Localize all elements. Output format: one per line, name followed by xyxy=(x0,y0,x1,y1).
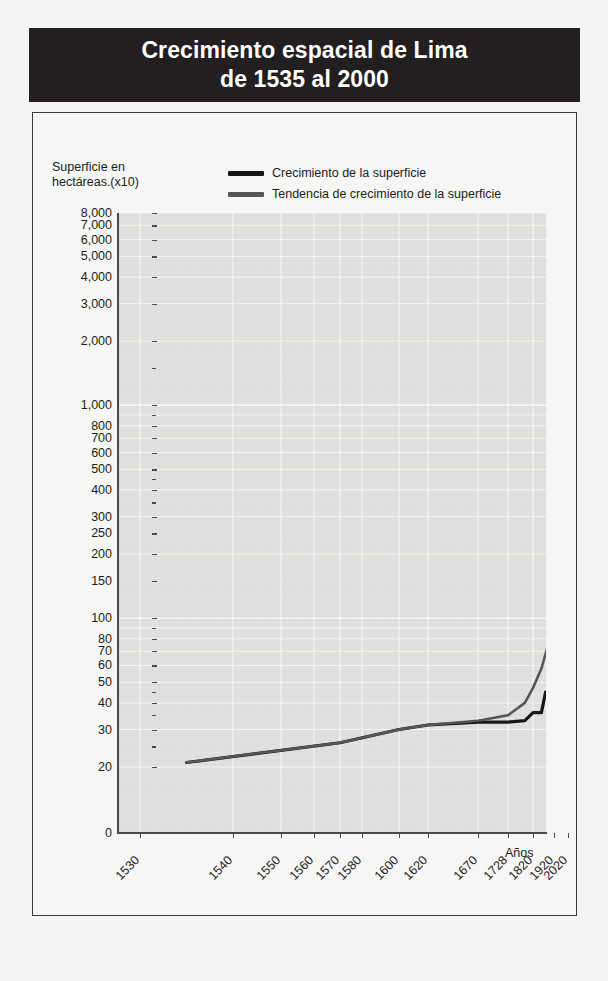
y-tick-mark xyxy=(152,517,157,518)
x-tick-mark xyxy=(428,833,429,838)
x-axis-title: Años xyxy=(505,846,534,860)
y-tick-mark xyxy=(152,581,157,582)
gridlines xyxy=(118,213,546,833)
y-tick-mark xyxy=(152,240,157,241)
y-tick-label: 20 xyxy=(98,760,112,774)
x-tick-mark xyxy=(281,833,282,838)
y-tick-mark xyxy=(152,438,157,439)
y-tick-label: 700 xyxy=(91,431,112,445)
y-tick-label: 6,000 xyxy=(81,233,112,247)
y-tick-mark xyxy=(152,533,157,534)
y-tick-label: 5,000 xyxy=(81,249,112,263)
y-tick-label: 300 xyxy=(91,510,112,524)
y-tick-mark-minor xyxy=(152,479,156,480)
y-tick-mark xyxy=(152,469,157,470)
y-tick-label: 600 xyxy=(91,446,112,460)
y-tick-label: 200 xyxy=(91,547,112,561)
y-tick-label: 250 xyxy=(91,526,112,540)
x-tick-mark xyxy=(399,833,400,838)
y-tick-mark xyxy=(152,277,157,278)
legend-item-tendencia: Tendencia de crecimiento de la superfici… xyxy=(228,186,501,202)
y-tick-mark xyxy=(152,426,157,427)
y-tick-label: 500 xyxy=(91,462,112,476)
y-tick-label: 150 xyxy=(91,574,112,588)
y-tick-label: 60 xyxy=(98,658,112,672)
y-tick-mark-minor xyxy=(152,502,156,503)
y-tick-mark-minor xyxy=(152,415,156,416)
y-tick-mark xyxy=(152,256,157,257)
legend-label-crecimiento: Crecimiento de la superficie xyxy=(272,166,426,180)
plot-area xyxy=(118,213,546,833)
y-tick-mark xyxy=(152,213,157,214)
y-tick-mark-minor xyxy=(152,368,156,369)
y-tick-label: 40 xyxy=(98,696,112,710)
x-tick-mark xyxy=(533,833,534,838)
page-title-line-2: de 1535 al 2000 xyxy=(220,65,389,94)
y-tick-mark xyxy=(152,833,157,834)
chart-figure: Crecimiento espacial de Lima de 1535 al … xyxy=(0,0,608,981)
x-tick-mark xyxy=(508,833,509,838)
x-tick-mark xyxy=(554,833,555,838)
y-tick-mark xyxy=(152,651,157,652)
y-tick-mark xyxy=(152,767,157,768)
plot-canvas xyxy=(118,213,546,833)
y-tick-mark xyxy=(152,304,157,305)
y-axis-line xyxy=(117,213,119,833)
y-tick-label: 100 xyxy=(91,611,112,625)
x-tick-mark xyxy=(568,833,569,838)
y-tick-mark-minor xyxy=(152,746,156,747)
y-tick-label: 3,000 xyxy=(81,297,112,311)
y-tick-mark xyxy=(152,405,157,406)
y-tick-mark xyxy=(152,703,157,704)
legend-swatch-tendencia xyxy=(228,192,264,197)
y-tick-mark xyxy=(152,453,157,454)
y-tick-label: 70 xyxy=(98,644,112,658)
chart-legend: Crecimiento de la superficie Tendencia d… xyxy=(228,165,501,202)
y-tick-mark-minor xyxy=(152,628,156,629)
y-tick-label: 1,000 xyxy=(81,398,112,412)
page-title-line-1: Crecimiento espacial de Lima xyxy=(141,36,467,65)
y-tick-mark xyxy=(152,618,157,619)
y-tick-mark-minor xyxy=(152,715,156,716)
y-tick-mark xyxy=(152,225,157,226)
y-tick-mark xyxy=(152,730,157,731)
y-tick-mark xyxy=(152,490,157,491)
x-tick-mark xyxy=(233,833,234,838)
x-tick-mark xyxy=(314,833,315,838)
y-tick-label: 400 xyxy=(91,483,112,497)
legend-item-crecimiento: Crecimiento de la superficie xyxy=(228,165,501,181)
x-axis-line xyxy=(117,832,547,834)
y-tick-label: 0 xyxy=(105,826,112,840)
x-tick-mark xyxy=(340,833,341,838)
y-tick-mark xyxy=(152,341,157,342)
x-tick-mark xyxy=(478,833,479,838)
y-tick-label: 2,000 xyxy=(81,334,112,348)
y-tick-mark xyxy=(152,554,157,555)
y-tick-label: 7,000 xyxy=(81,218,112,232)
y-axis-ticks: 8,0007,0006,0005,0004,0003,0002,0001,000… xyxy=(40,0,112,981)
y-tick-label: 30 xyxy=(98,723,112,737)
x-tick-mark xyxy=(140,833,141,838)
y-tick-mark xyxy=(152,682,157,683)
legend-label-tendencia: Tendencia de crecimiento de la superfici… xyxy=(272,187,501,201)
y-tick-label: 4,000 xyxy=(81,270,112,284)
x-tick-mark xyxy=(362,833,363,838)
y-tick-mark-minor xyxy=(152,692,156,693)
y-tick-mark xyxy=(152,665,157,666)
legend-swatch-crecimiento xyxy=(228,171,264,176)
y-tick-label: 50 xyxy=(98,675,112,689)
y-tick-mark xyxy=(152,639,157,640)
